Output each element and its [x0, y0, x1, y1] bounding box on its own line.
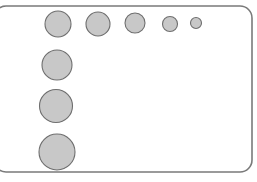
row-circle-5: [191, 18, 202, 29]
column-circles: [39, 50, 75, 170]
column-circle-3: [39, 134, 75, 170]
row-circle-4: [163, 17, 178, 32]
row-circle-1: [45, 11, 71, 37]
rounded-frame: [0, 6, 252, 172]
row-circles: [45, 11, 202, 37]
circles-diagram: [0, 0, 257, 182]
row-circle-3: [125, 13, 145, 33]
diagram-canvas: [0, 0, 257, 182]
column-circle-1: [42, 50, 72, 80]
row-circle-2: [86, 12, 110, 36]
column-circle-2: [40, 90, 73, 123]
